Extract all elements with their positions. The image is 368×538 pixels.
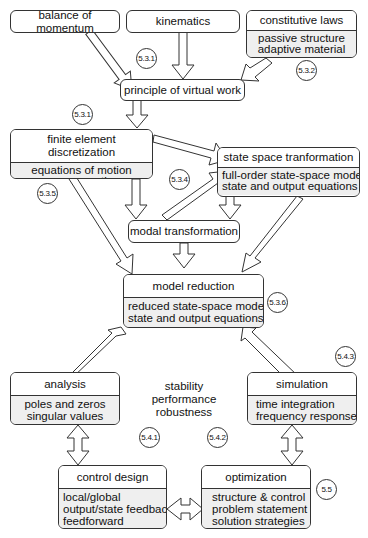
section-ref-badge: 5.3.2 bbox=[296, 60, 317, 81]
arrow-kinematics-to-pvw bbox=[172, 32, 194, 79]
box-simulation: simulation time integration frequency re… bbox=[247, 372, 357, 425]
box-title: state space tranformation bbox=[218, 148, 359, 167]
box-line: solution strategies bbox=[212, 515, 306, 527]
box-line: frequency response bbox=[256, 410, 352, 422]
section-ref-badge: 5.4.3 bbox=[335, 346, 356, 367]
box-optimization: optimization structure & control problem… bbox=[201, 465, 311, 529]
box-content: structure & control problem statement so… bbox=[202, 488, 310, 529]
box-content: full-order state-space model state and o… bbox=[218, 167, 359, 195]
box-title: model reduction bbox=[124, 275, 263, 297]
arrow-statespace-to-modal bbox=[219, 196, 241, 219]
box-content: passive structure adaptive material bbox=[247, 30, 356, 58]
box-control-design: control design local/global output/state… bbox=[58, 465, 167, 529]
arrow-fe-to-statespace bbox=[153, 135, 227, 165]
arrow-pvw-to-fe bbox=[126, 100, 148, 128]
box-kinematics: kinematics bbox=[126, 10, 240, 33]
box-line: poles and zeros bbox=[15, 398, 115, 410]
arrow-simulation-optimization bbox=[281, 425, 303, 465]
section-ref-badge: 5.3.1 bbox=[72, 104, 93, 125]
box-balance-of-momentum: balance of momentum bbox=[10, 10, 120, 33]
box-title: analysis bbox=[11, 373, 119, 395]
box-content: local/global output/state feedback feedf… bbox=[59, 488, 166, 529]
arrow-analysis-control bbox=[67, 425, 89, 465]
box-state-space-transformation: state space tranformation full-order sta… bbox=[217, 147, 360, 197]
box-principle-of-virtual-work: principle of virtual work bbox=[120, 79, 245, 101]
box-content: reduced state-space model state and outp… bbox=[124, 297, 263, 327]
section-ref-badge: 5.3.5 bbox=[37, 183, 58, 204]
arrow-modal-to-reduction bbox=[173, 243, 195, 268]
box-line: problem statement bbox=[212, 503, 306, 515]
box-line: sensor equations bbox=[15, 176, 148, 179]
box-line: singular values bbox=[15, 410, 115, 422]
box-line: feedforward bbox=[63, 515, 162, 527]
box-title: kinematics bbox=[156, 15, 210, 28]
box-line: state and output equations bbox=[222, 181, 355, 192]
section-ref-badge: 5.3.6 bbox=[267, 292, 288, 313]
section-ref-badge: 5.3.4 bbox=[169, 169, 190, 190]
criteria-line: robustness bbox=[140, 406, 228, 419]
section-ref-badge: 5.4.1 bbox=[139, 427, 160, 448]
section-ref-badge: 5.4.2 bbox=[207, 427, 228, 448]
arrow-control-optimization bbox=[167, 498, 203, 520]
box-line: local/global bbox=[63, 491, 162, 503]
box-title: modal transformation bbox=[130, 225, 238, 238]
section-ref-badge: 5.5 bbox=[316, 479, 337, 500]
box-content: poles and zeros singular values bbox=[11, 395, 119, 425]
box-line: adaptive material bbox=[251, 44, 352, 55]
box-analysis: analysis poles and zeros singular values bbox=[10, 372, 120, 425]
criteria-line: performance bbox=[140, 393, 228, 406]
box-finite-element-discretization: finite element discretization equations … bbox=[10, 129, 153, 179]
arrow-fe-to-modal bbox=[125, 179, 147, 219]
box-title: control design bbox=[59, 466, 166, 488]
box-line: output/state feedback bbox=[63, 503, 162, 515]
box-title: principle of virtual work bbox=[124, 84, 241, 97]
section-ref-badge: 5.3.1 bbox=[136, 48, 157, 69]
box-model-reduction: model reduction reduced state-space mode… bbox=[123, 274, 264, 328]
analysis-criteria: stability performance robustness bbox=[140, 380, 228, 419]
arrow-statespace-to-reduction bbox=[242, 196, 303, 272]
box-title: constitutive laws bbox=[247, 11, 356, 30]
box-line: structure & control bbox=[212, 491, 306, 503]
box-constitutive-laws: constitutive laws passive structure adap… bbox=[246, 10, 357, 58]
box-content: time integration frequency response bbox=[248, 395, 356, 425]
criteria-line: stability bbox=[140, 380, 228, 393]
arrow-fe-to-reduction bbox=[69, 175, 133, 274]
box-title: balance of momentum bbox=[11, 10, 119, 33]
box-modal-transformation: modal transformation bbox=[128, 220, 240, 243]
box-line: time integration bbox=[256, 398, 352, 410]
box-line: reduced state-space model bbox=[128, 300, 259, 312]
box-content: equations of motion sensor equations bbox=[11, 162, 152, 179]
box-line: state and output equations bbox=[128, 312, 259, 324]
box-title: finite element discretization bbox=[11, 130, 152, 162]
box-title: simulation bbox=[248, 373, 356, 395]
arrow-constitutive-to-pvw bbox=[241, 58, 272, 81]
box-title: optimization bbox=[202, 466, 310, 488]
